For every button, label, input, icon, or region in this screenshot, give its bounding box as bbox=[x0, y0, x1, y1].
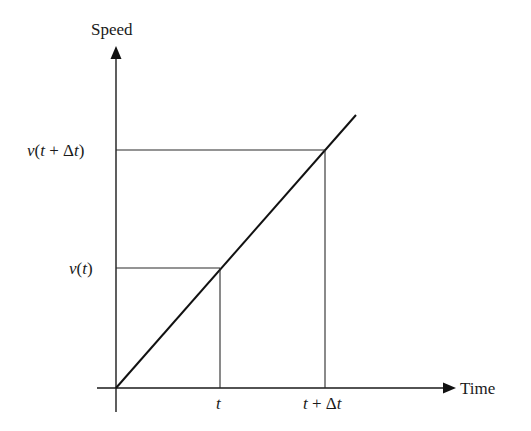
y-tick-label-vt: v(t) bbox=[69, 259, 93, 278]
y-axis-arrow-icon bbox=[111, 46, 122, 59]
x-axis-arrow-icon bbox=[443, 383, 456, 394]
speed-time-diagram: Speed Time v(t) v(t + Δt) t t + Δt bbox=[0, 0, 531, 431]
x-tick-label-tdt: t + Δt bbox=[303, 394, 343, 413]
y-tick-label-vtdt: v(t + Δt) bbox=[27, 141, 84, 160]
speed-line bbox=[116, 115, 356, 388]
y-axis-label: Speed bbox=[91, 20, 133, 39]
x-axis-label: Time bbox=[460, 379, 495, 398]
x-tick-label-t: t bbox=[216, 394, 222, 413]
